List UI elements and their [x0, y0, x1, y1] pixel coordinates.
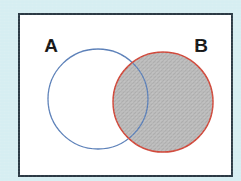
set-a-label: A	[44, 35, 58, 56]
venn-diagram-canvas: A B	[0, 0, 241, 181]
set-b-label: B	[194, 35, 208, 56]
venn-diagram-figure: A B	[0, 0, 241, 181]
